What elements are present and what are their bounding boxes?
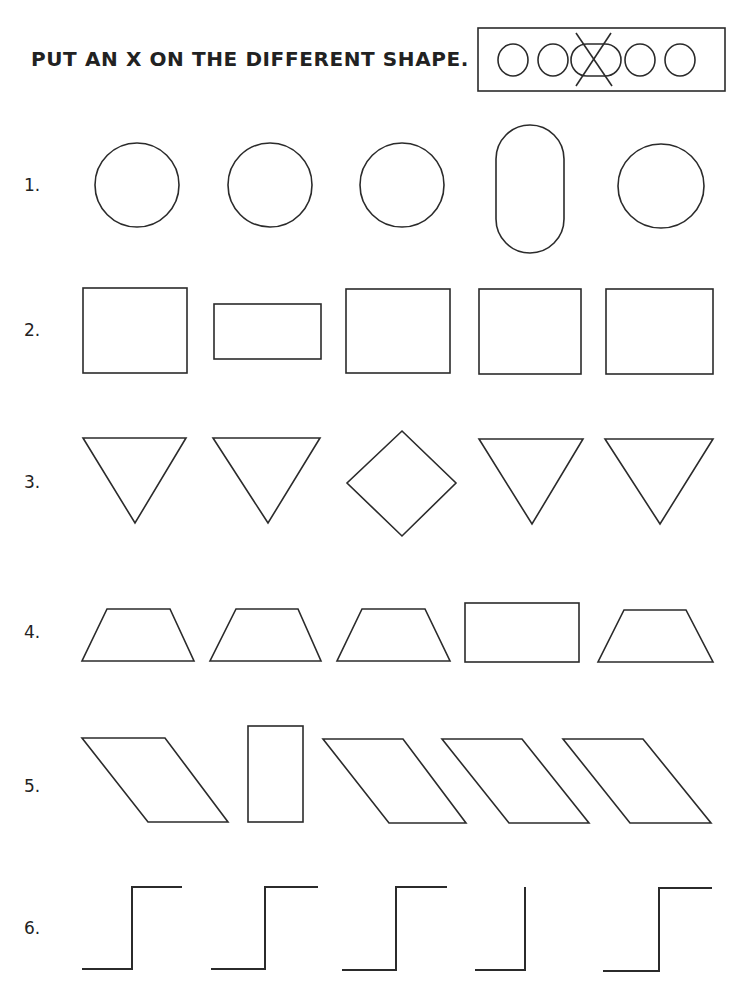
shape-circle[interactable] [618,144,704,228]
shape-diamond[interactable] [347,431,456,536]
shape-rectangle[interactable] [248,726,303,822]
example-circle [665,44,695,76]
example-circle [538,44,568,76]
shape-circle[interactable] [360,143,444,227]
shape-trapezoid[interactable] [210,609,321,661]
shape-circle[interactable] [95,143,179,227]
row-2-shapes[interactable] [83,288,713,374]
shape-circle[interactable] [228,143,312,227]
shape-square[interactable] [346,289,450,373]
row-1-shapes[interactable] [95,125,704,253]
row-3-shapes[interactable] [83,431,713,536]
shape-parallelogram[interactable] [563,739,711,823]
shape-rectangle[interactable] [214,304,321,359]
shape-square[interactable] [83,288,187,373]
row-6-shapes[interactable] [82,887,712,971]
shape-parallelogram[interactable] [442,739,589,823]
shape-step[interactable] [82,887,182,969]
worksheet-shapes [0,0,735,994]
example-circle [498,44,528,76]
example-box [478,28,725,91]
shape-rectangle[interactable] [465,603,579,662]
shape-triangle[interactable] [605,439,713,524]
shape-triangle[interactable] [83,438,186,523]
shape-square[interactable] [479,289,581,374]
shape-parallelogram[interactable] [82,738,228,822]
shape-trapezoid[interactable] [337,609,450,661]
example-circle [625,44,655,76]
example-frame [478,28,725,91]
shape-parallelogram[interactable] [323,739,466,823]
shape-triangle[interactable] [213,438,320,523]
shape-corner[interactable] [475,887,525,970]
shape-square[interactable] [606,289,713,374]
row-4-shapes[interactable] [82,603,713,662]
shape-step[interactable] [342,887,447,970]
shape-pill[interactable] [496,125,564,253]
row-5-shapes[interactable] [82,726,711,823]
example-pill [571,44,621,76]
shape-trapezoid[interactable] [598,610,713,662]
shape-step[interactable] [211,887,318,969]
shape-trapezoid[interactable] [82,609,194,661]
shape-triangle[interactable] [479,439,583,524]
shape-step[interactable] [603,888,712,971]
